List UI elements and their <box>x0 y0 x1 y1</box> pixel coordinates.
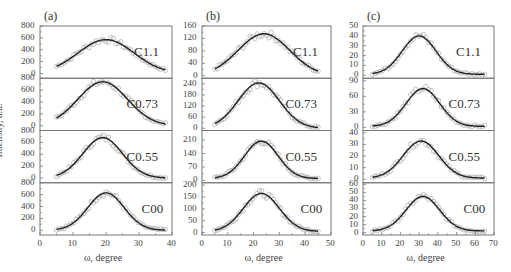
x-tick-label: 0 <box>37 238 42 248</box>
series-label: C0.55 <box>286 149 317 165</box>
y-tick-label: 90 <box>349 75 358 85</box>
y-tick-label: 50 <box>188 215 197 225</box>
x-tick-label: 50 <box>451 238 460 248</box>
x-tick-label: 30 <box>134 238 143 248</box>
y-tick-label: 400 <box>21 148 35 158</box>
y-tick-label: 20 <box>349 50 358 60</box>
y-tick-label: 120 <box>183 32 197 42</box>
panel-label: (a) <box>44 9 57 24</box>
y-tick-label: 800 <box>21 20 35 30</box>
y-tick-label: 50 <box>349 20 358 30</box>
y-tick-label: 180 <box>183 89 197 99</box>
x-axis-label: ω, degree <box>407 252 445 263</box>
y-tick-label: 200 <box>21 108 35 118</box>
x-axis-label: ω, degree <box>245 252 283 263</box>
panel-label: (c) <box>367 9 380 24</box>
y-tick-label: 600 <box>21 189 35 199</box>
series-label: C1.1 <box>134 44 159 60</box>
series-label: C00 <box>142 201 164 217</box>
series-label: C00 <box>301 201 323 217</box>
y-tick-label: 200 <box>21 160 35 170</box>
x-tick-label: 20 <box>248 238 257 248</box>
series-label: C0.73 <box>286 96 317 112</box>
y-tick-label: 400 <box>21 201 35 211</box>
series-label: C00 <box>464 201 486 217</box>
y-tick-label: 800 <box>21 177 35 187</box>
x-tick-label: 10 <box>223 238 232 248</box>
y-tick-label: 60 <box>188 111 197 121</box>
series-label: C0.55 <box>449 149 480 165</box>
y-tick-label: 400 <box>21 96 35 106</box>
y-tick-label: 800 <box>21 125 35 135</box>
y-tick-label: 0 <box>193 122 198 132</box>
y-tick-label: 120 <box>183 100 197 110</box>
y-tick-label: 0 <box>193 227 198 237</box>
y-tick-label: 30 <box>349 106 358 116</box>
x-tick-label: 0 <box>199 238 204 248</box>
series-label: C0.55 <box>127 149 158 165</box>
y-tick-label: 200 <box>21 212 35 222</box>
y-tick-label: 80 <box>188 45 197 55</box>
y-tick-label: 40 <box>349 127 358 137</box>
y-tick-label: 30 <box>349 40 358 50</box>
x-tick-label: 0 <box>360 238 365 248</box>
x-tick-label: 70 <box>489 238 498 248</box>
series-label: C0.73 <box>127 96 158 112</box>
y-tick-label: 60 <box>349 90 358 100</box>
y-tick-label: 100 <box>183 203 197 213</box>
y-tick-label: 600 <box>21 136 35 146</box>
x-tick-label: 50 <box>326 238 335 248</box>
y-tick-label: 240 <box>183 78 197 88</box>
x-tick-label: 20 <box>395 238 404 248</box>
y-tick-label: 140 <box>183 148 197 158</box>
y-tick-label: 10 <box>349 59 358 69</box>
y-tick-label: 0 <box>31 224 36 234</box>
y-tick-label: 800 <box>21 72 35 82</box>
x-tick-label: 20 <box>101 238 110 248</box>
panel-label: (b) <box>206 9 220 24</box>
y-tick-label: 70 <box>188 161 197 171</box>
x-tick-label: 10 <box>377 238 386 248</box>
y-tick-label: 10 <box>349 162 358 172</box>
x-tick-label: 40 <box>167 238 176 248</box>
y-tick-label: 60 <box>349 178 358 188</box>
y-tick-label: 600 <box>21 32 35 42</box>
y-tick-label: 40 <box>188 57 197 67</box>
y-tick-label: 210 <box>183 134 197 144</box>
x-tick-label: 10 <box>68 238 77 248</box>
y-tick-label: 200 <box>21 56 35 66</box>
x-tick-label: 30 <box>414 238 423 248</box>
series-label: C1.1 <box>456 44 481 60</box>
x-tick-label: 60 <box>470 238 479 248</box>
x-tick-label: 40 <box>433 238 442 248</box>
x-tick-label: 30 <box>274 238 283 248</box>
series-label: C1.1 <box>293 44 318 60</box>
y-tick-label: 150 <box>183 191 197 201</box>
y-tick-label: 40 <box>349 30 358 40</box>
y-tick-label: 600 <box>21 84 35 94</box>
x-axis-label: ω, degree <box>84 252 122 263</box>
y-tick-label: 160 <box>183 20 197 30</box>
y-tick-label: 200 <box>183 179 197 189</box>
series-label: C0.73 <box>449 96 480 112</box>
x-tick-label: 40 <box>300 238 309 248</box>
y-tick-label: 400 <box>21 44 35 54</box>
y-tick-label: 30 <box>349 138 358 148</box>
figure <box>0 0 511 272</box>
y-axis-label: Intensity, a.u. <box>0 104 4 158</box>
y-tick-label: 20 <box>349 150 358 160</box>
